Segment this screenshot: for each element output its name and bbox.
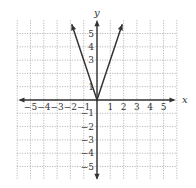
y-tick-label: −1 <box>81 108 94 118</box>
x-axis-arrow-right-icon <box>169 97 175 102</box>
x-tick-label: 1 <box>107 102 113 112</box>
x-tick-label: 3 <box>134 102 140 112</box>
y-axis-arrow-up-icon <box>94 20 99 26</box>
y-tick-label: −5 <box>81 162 95 172</box>
y-axis-label: y <box>93 7 100 18</box>
x-axis-label: x <box>182 94 188 105</box>
y-axis-arrow-down-icon <box>94 174 99 180</box>
x-tick-label: −3 <box>50 102 64 112</box>
y-tick-label: −3 <box>81 135 95 145</box>
y-tick-label: −4 <box>81 148 95 158</box>
x-tick-label: −4 <box>37 102 51 112</box>
x-tick-label: −5 <box>24 102 38 112</box>
x-tick-label: 5 <box>161 102 167 112</box>
y-tick-label: 4 <box>88 42 94 52</box>
x-tick-label: −2 <box>64 102 77 112</box>
x-tick-label: 2 <box>121 102 127 112</box>
y-tick-label: 5 <box>88 29 94 39</box>
y-tick-label: 3 <box>88 55 94 65</box>
y-tick-label: −2 <box>81 122 94 132</box>
y-tick-label: 1 <box>88 82 94 92</box>
coordinate-plane: −5−4−3−2−1123451345−1−2−3−4−5 x y <box>0 0 196 188</box>
x-tick-label: 4 <box>147 102 153 112</box>
